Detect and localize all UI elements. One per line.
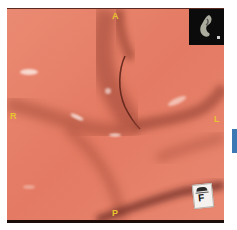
orientation-label-posterior: P <box>112 209 118 218</box>
organ-overview-icon <box>189 9 224 45</box>
locator-inset[interactable] <box>189 9 224 45</box>
cube-face-label: F <box>198 193 205 204</box>
orientation-label-anterior: A <box>112 12 119 21</box>
orientation-cube-icon[interactable]: F <box>192 183 214 209</box>
side-panel-marker[interactable] <box>232 129 237 153</box>
orientation-label-right: R <box>10 112 17 121</box>
orientation-label-left: L <box>214 115 220 124</box>
endoscopy-3d-viewport[interactable]: A R L P F <box>7 8 224 223</box>
